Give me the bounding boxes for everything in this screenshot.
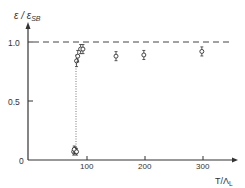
y-axis-arrow-icon xyxy=(26,22,31,29)
y-tick-label-05: 0.5 xyxy=(8,97,20,107)
data-points xyxy=(72,45,204,156)
x-tick-label-100: 100 xyxy=(80,162,94,171)
y-axis-label: ε / εSB xyxy=(14,10,41,22)
x-axis-label: T/ΛL xyxy=(215,176,233,187)
chart: 1.0 0.5 0 100 200 300 ε / εSB T/ΛL xyxy=(0,0,245,188)
data-point xyxy=(200,47,204,56)
y-tick-label-0: 0 xyxy=(19,156,24,166)
data-point xyxy=(114,52,118,61)
x-tick-label-200: 200 xyxy=(138,162,152,171)
x-tick-label-300: 300 xyxy=(196,162,210,171)
data-point xyxy=(81,45,85,54)
y-tick-label-1: 1.0 xyxy=(8,38,20,48)
x-axis-arrow-icon xyxy=(232,158,238,163)
data-point xyxy=(142,50,146,59)
